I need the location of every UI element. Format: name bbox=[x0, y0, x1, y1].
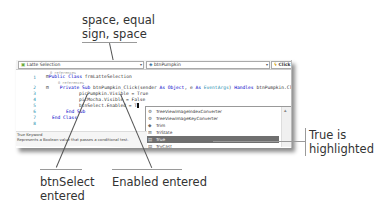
line-number: 5 bbox=[16, 103, 36, 108]
tooltip-description: Represents a Boolean value that passes a… bbox=[17, 137, 147, 142]
editor-navigation-bar: ▣ Latte Selection ▾ ◈ btnPumpkin ▾ ϟ Cli… bbox=[16, 60, 291, 70]
line-number: 1 bbox=[16, 75, 36, 80]
callout-rule-enabled bbox=[112, 169, 182, 170]
line-number: 4 bbox=[16, 97, 36, 102]
callout-text-line2: highlighted bbox=[309, 142, 374, 156]
leader-line-right bbox=[213, 141, 305, 142]
field-icon: ◈ bbox=[149, 62, 152, 67]
event-dropdown[interactable]: ϟ Click bbox=[271, 61, 292, 69]
class-icon: ⚙ bbox=[148, 115, 152, 122]
chevron-down-icon: ▾ bbox=[266, 62, 268, 68]
code-line: End Class bbox=[52, 115, 77, 121]
intellisense-item[interactable]: ⚙TreeViewImageIndexConverter bbox=[146, 108, 279, 115]
callout-true-highlighted: True is highlighted bbox=[309, 128, 374, 156]
line-number: 2 bbox=[16, 85, 36, 90]
callout-text: Enabled entered bbox=[112, 175, 207, 189]
torn-edge-bottom bbox=[16, 144, 291, 148]
callout-rule-btnselect bbox=[40, 169, 82, 170]
line-number: 7 bbox=[16, 115, 36, 120]
collapse-icon[interactable]: ⊟ bbox=[46, 85, 49, 90]
member-dropdown[interactable]: ◈ btnPumpkin ▾ bbox=[146, 61, 270, 69]
code-line-current: btnSelect.Enabled = T bbox=[79, 103, 139, 109]
callout-text-line1: True is bbox=[309, 128, 374, 142]
line-number: 8 bbox=[16, 121, 36, 126]
callout-btnselect-entered: btnSelect entered bbox=[40, 175, 95, 203]
class-icon: ⚙ bbox=[148, 108, 152, 115]
keyword-icon: ▤ bbox=[148, 136, 152, 143]
callout-rule-right bbox=[305, 128, 306, 156]
callout-text-line2: entered bbox=[40, 189, 95, 203]
callout-text-line1: btnSelect bbox=[40, 175, 95, 189]
class-name: frmLatteSelection bbox=[85, 74, 132, 79]
event-icon: ϟ bbox=[274, 62, 277, 67]
method-icon: ◆ bbox=[148, 122, 151, 129]
scroll-up-icon[interactable]: ▴ bbox=[284, 107, 287, 113]
class-dropdown[interactable]: ▣ Latte Selection ▾ bbox=[18, 61, 144, 69]
vs-editor-screenshot: ▣ Latte Selection ▾ ◈ btnPumpkin ▾ ϟ Cli… bbox=[16, 60, 292, 148]
text-cursor bbox=[137, 103, 139, 108]
enum-icon: ⊞ bbox=[148, 129, 152, 136]
intellisense-item[interactable]: ⊞TriState bbox=[146, 129, 279, 136]
line-number: 6 bbox=[16, 109, 36, 114]
class-icon: ▣ bbox=[21, 62, 25, 67]
callout-space-equal-sign: space, equal sign, space bbox=[82, 13, 155, 41]
callout-enabled-entered: Enabled entered bbox=[112, 175, 207, 189]
line-number: 3 bbox=[16, 91, 36, 96]
intellisense-item[interactable]: ◆Trim bbox=[146, 122, 279, 129]
intellisense-item[interactable]: ⚙TreeViewImageKeyConverter bbox=[146, 115, 279, 122]
callout-text-line1: space, equal bbox=[82, 13, 155, 27]
chevron-down-icon: ▾ bbox=[140, 62, 142, 68]
callout-text-line2: sign, space bbox=[82, 27, 155, 41]
